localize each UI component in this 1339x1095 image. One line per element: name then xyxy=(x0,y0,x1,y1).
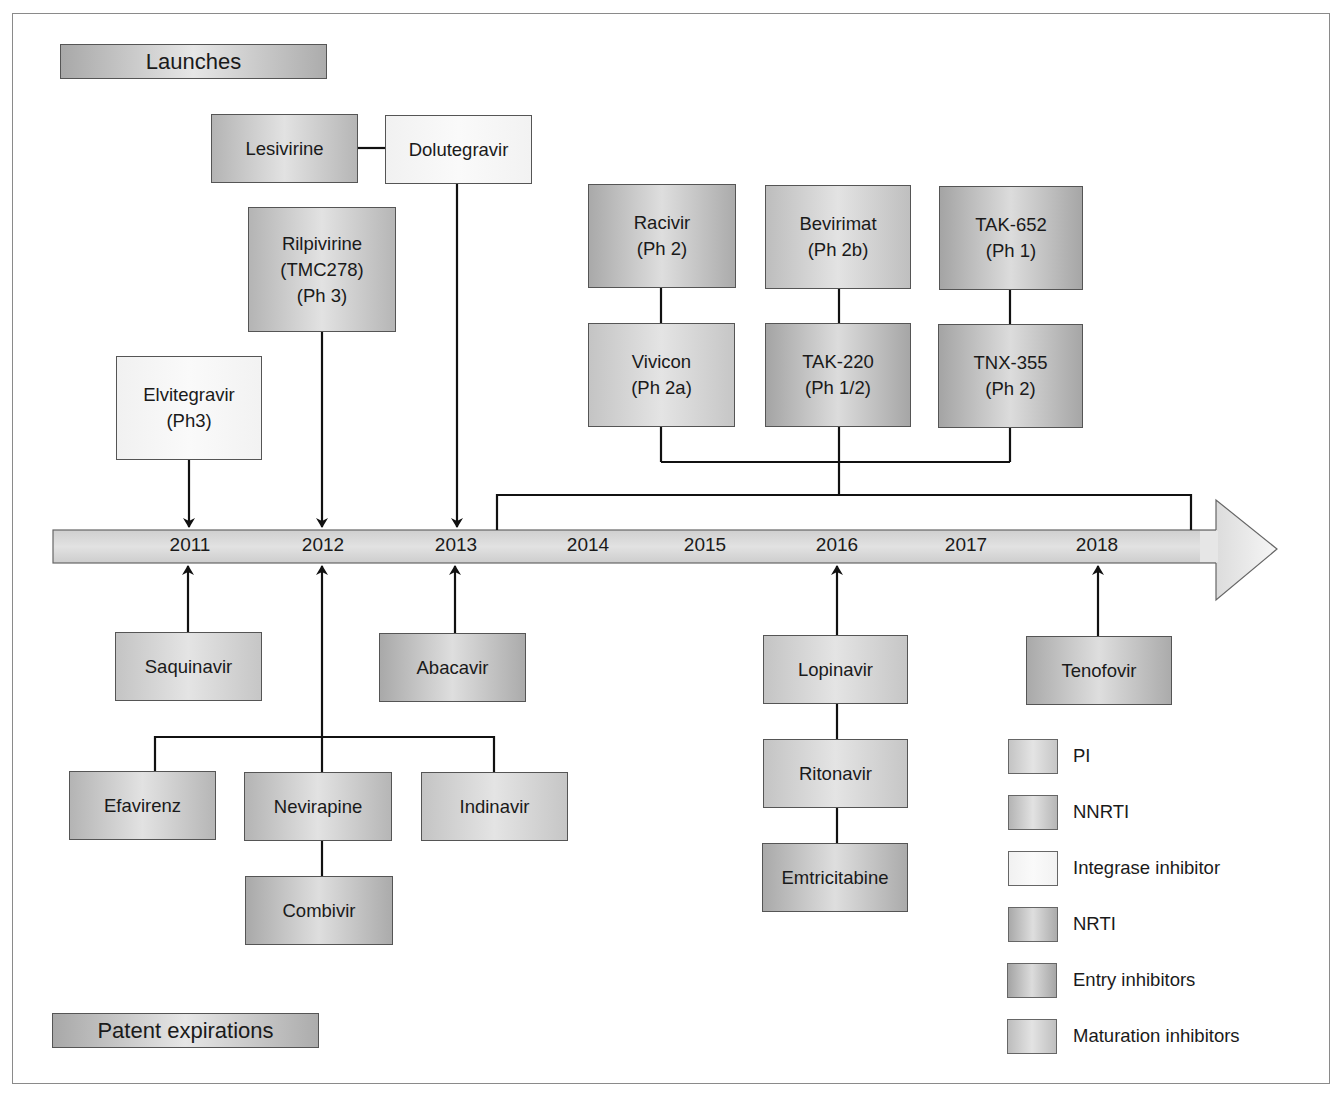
legend-label-integrase: Integrase inhibitor xyxy=(1073,857,1220,879)
legend-label-maturation: Maturation inhibitors xyxy=(1073,1025,1240,1047)
legend-label-pi: PI xyxy=(1073,745,1090,767)
drug-box-emtricitabine: Emtricitabine xyxy=(762,843,908,912)
year-2011: 2011 xyxy=(170,534,211,556)
legend-label-entry: Entry inhibitors xyxy=(1073,969,1195,991)
drug-box-saquinavir: Saquinavir xyxy=(115,632,262,701)
year-2018: 2018 xyxy=(1076,534,1118,556)
drug-box-combivir: Combivir xyxy=(245,876,393,945)
drug-box-vivicon: Vivicon (Ph 2a) xyxy=(588,323,735,427)
year-2012: 2012 xyxy=(302,534,344,556)
drug-box-lesivirine: Lesivirine xyxy=(211,114,358,183)
year-2017: 2017 xyxy=(945,534,987,556)
drug-box-indinavir: Indinavir xyxy=(421,772,568,841)
drug-box-efavirenz: Efavirenz xyxy=(69,771,216,840)
drug-box-bevirimat: Bevirimat (Ph 2b) xyxy=(765,185,911,289)
drug-box-lopinavir: Lopinavir xyxy=(763,635,908,704)
legend-swatch-integrase xyxy=(1008,851,1058,886)
drug-box-elvitegravir: Elvitegravir (Ph3) xyxy=(116,356,262,460)
drug-box-tak220: TAK-220 (Ph 1/2) xyxy=(765,323,911,427)
drug-box-nevirapine: Nevirapine xyxy=(244,772,392,841)
drug-box-abacavir: Abacavir xyxy=(379,633,526,702)
drug-box-racivir: Racivir (Ph 2) xyxy=(588,184,736,288)
drug-box-ritonavir: Ritonavir xyxy=(763,739,908,808)
drug-box-tenofovir: Tenofovir xyxy=(1026,636,1172,705)
legend-label-nnrti: NNRTI xyxy=(1073,801,1129,823)
year-2014: 2014 xyxy=(567,534,609,556)
launches-header: Launches xyxy=(60,44,327,79)
legend-swatch-pi xyxy=(1008,739,1058,774)
legend-swatch-maturation xyxy=(1007,1019,1057,1054)
legend-label-nrti: NRTI xyxy=(1073,913,1116,935)
drug-box-tnx355: TNX-355 (Ph 2) xyxy=(938,324,1083,428)
patent-expirations-header: Patent expirations xyxy=(52,1013,319,1048)
drug-box-tak652: TAK-652 (Ph 1) xyxy=(939,186,1083,290)
year-2015: 2015 xyxy=(684,534,726,556)
year-2016: 2016 xyxy=(816,534,858,556)
drug-box-dolutegravir: Dolutegravir xyxy=(385,115,532,184)
drug-box-rilpivirine: Rilpivirine (TMC278) (Ph 3) xyxy=(248,207,396,332)
legend-swatch-nnrti xyxy=(1008,795,1058,830)
legend-swatch-nrti xyxy=(1008,907,1058,942)
legend-swatch-entry xyxy=(1007,963,1057,998)
year-2013: 2013 xyxy=(435,534,477,556)
